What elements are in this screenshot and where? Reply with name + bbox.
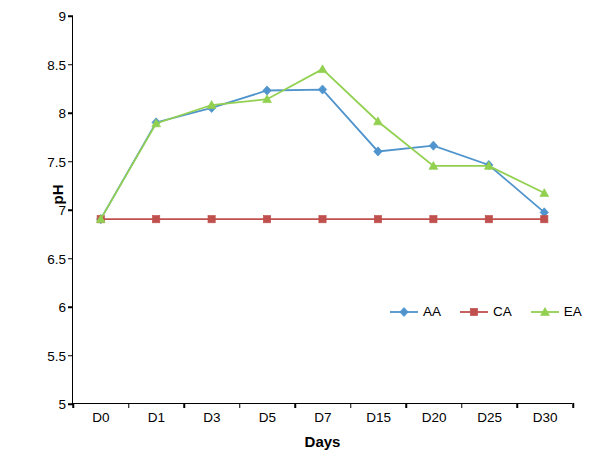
x-tick-label: D15 xyxy=(366,410,391,425)
x-tick-label: D30 xyxy=(533,410,558,425)
y-tick-label: 7 xyxy=(58,203,66,218)
x-tick-mark xyxy=(517,403,519,408)
y-tick-label: 8 xyxy=(58,106,66,121)
x-tick-label: D7 xyxy=(314,410,331,425)
legend-swatch-square-icon xyxy=(459,305,489,319)
chart-container: pH Days 55.566.577.588.59 D0D1D3D5D7D15D… xyxy=(0,0,600,464)
x-tick-label: D3 xyxy=(203,410,220,425)
x-tick-mark xyxy=(406,403,408,408)
y-tick-label: 5.5 xyxy=(47,348,66,363)
y-tick-label: 5 xyxy=(58,397,66,412)
plot-area: pH Days 55.566.577.588.59 D0D1D3D5D7D15D… xyxy=(72,16,572,404)
y-tick-label: 6.5 xyxy=(47,251,66,266)
x-tick-mark xyxy=(72,403,74,408)
data-point-marker xyxy=(540,189,549,197)
legend-swatch-triangle-icon xyxy=(530,305,560,319)
x-tick-mark xyxy=(572,403,574,408)
legend-item-ca[interactable]: CA xyxy=(459,304,512,319)
series-aa xyxy=(97,85,549,224)
x-tick-mark xyxy=(294,403,296,408)
data-point-marker xyxy=(263,86,271,95)
data-point-marker xyxy=(485,216,492,223)
x-tick-label: D1 xyxy=(148,410,165,425)
y-tick-label: 6 xyxy=(58,300,66,315)
y-tick-label: 8.5 xyxy=(47,57,66,72)
series-layer xyxy=(73,16,572,403)
y-tick-label: 9 xyxy=(58,9,66,24)
x-tick-mark xyxy=(128,403,130,408)
legend-label: AA xyxy=(423,304,441,319)
x-tick-mark xyxy=(350,403,352,408)
data-point-marker xyxy=(400,307,408,316)
x-tick-label: D25 xyxy=(477,410,502,425)
data-point-marker xyxy=(429,141,437,150)
x-tick-label: D5 xyxy=(259,410,276,425)
x-tick-label: D0 xyxy=(92,410,109,425)
series-line xyxy=(101,90,545,220)
data-point-marker xyxy=(470,308,477,315)
legend-label: EA xyxy=(564,304,582,319)
x-tick-mark xyxy=(239,403,241,408)
legend-item-ea[interactable]: EA xyxy=(530,304,582,319)
data-point-marker xyxy=(263,216,270,223)
x-axis-title: Days xyxy=(73,433,572,450)
y-tick-label: 7.5 xyxy=(47,154,66,169)
chart-legend: AACAEA xyxy=(389,304,582,319)
data-point-marker xyxy=(208,216,215,223)
legend-label: CA xyxy=(493,304,512,319)
data-point-marker xyxy=(541,216,548,223)
legend-item-aa[interactable]: AA xyxy=(389,304,441,319)
series-ca xyxy=(97,216,548,223)
data-point-marker xyxy=(430,216,437,223)
x-tick-mark xyxy=(183,403,185,408)
data-point-marker xyxy=(153,216,160,223)
data-point-marker xyxy=(374,216,381,223)
legend-swatch-diamond-icon xyxy=(389,305,419,319)
data-point-marker xyxy=(319,216,326,223)
x-tick-label: D20 xyxy=(422,410,447,425)
data-point-marker xyxy=(318,65,327,73)
x-tick-mark xyxy=(461,403,463,408)
